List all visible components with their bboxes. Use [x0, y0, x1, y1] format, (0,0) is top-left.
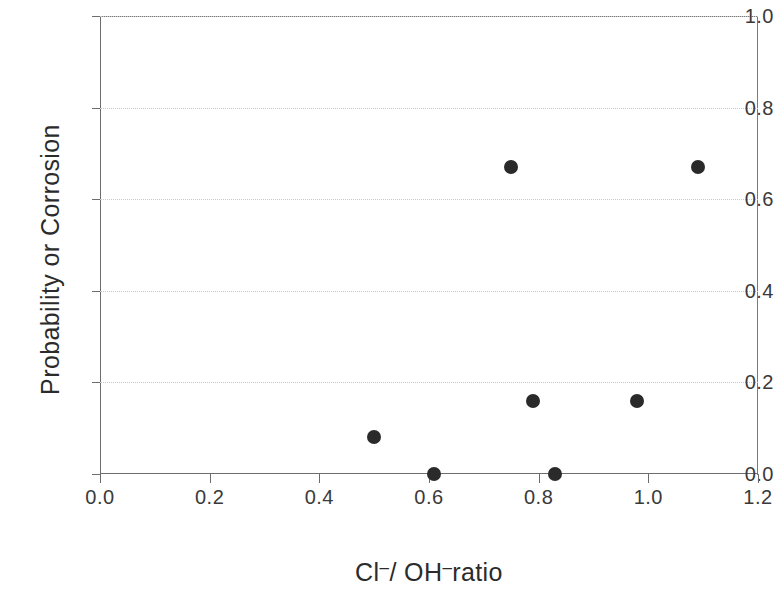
y-tick-mark-1.0 [92, 16, 100, 17]
x-tick-label-1.0: 1.0 [603, 486, 693, 509]
gridline-y-0.2 [100, 382, 758, 383]
data-point [427, 467, 441, 481]
x-tick-mark-1.0 [648, 474, 649, 483]
y-tick-label-0.4: 0.4 [690, 279, 774, 302]
x-tick-label-0.0: 0.0 [55, 486, 145, 509]
x-tick-mark-0.4 [319, 474, 320, 483]
x-tick-label-0.4: 0.4 [274, 486, 364, 509]
gridline-y-0.8 [100, 108, 758, 109]
gridline-y-0.4 [100, 291, 758, 292]
x-tick-mark-0.8 [539, 474, 540, 483]
y-tick-label-0.8: 0.8 [690, 96, 774, 119]
data-point [548, 467, 562, 481]
x-tick-mark-0.0 [100, 474, 101, 483]
y-tick-mark-0.0 [92, 474, 100, 475]
y-tick-label-1.0: 1.0 [690, 5, 774, 28]
data-point [630, 394, 644, 408]
y-tick-mark-0.4 [92, 291, 100, 292]
x-tick-mark-1.2 [758, 474, 759, 483]
data-point [691, 160, 705, 174]
x-tick-mark-0.2 [210, 474, 211, 483]
y-tick-mark-0.6 [92, 199, 100, 200]
x-tick-label-1.2: 1.2 [713, 486, 774, 509]
x-tick-label-0.8: 0.8 [494, 486, 584, 509]
gridline-y-1 [100, 16, 758, 17]
data-point [526, 394, 540, 408]
y-tick-label-0.2: 0.2 [690, 371, 774, 394]
x-tick-label-0.2: 0.2 [165, 486, 255, 509]
y-tick-mark-0.8 [92, 108, 100, 109]
y-tick-label-0.0: 0.0 [690, 463, 774, 486]
y-tick-mark-0.2 [92, 382, 100, 383]
y-tick-label-0.6: 0.6 [690, 188, 774, 211]
x-axis-label: Cl–/ OH–ratio [100, 558, 758, 587]
x-tick-label-0.6: 0.6 [384, 486, 474, 509]
scatter-chart: 0.00.20.40.60.81.0 0.00.20.40.60.81.01.2… [0, 0, 774, 602]
y-axis-label: Probability or Corrosion [36, 50, 65, 470]
plot-area [100, 16, 758, 474]
gridline-y-0.6 [100, 199, 758, 200]
